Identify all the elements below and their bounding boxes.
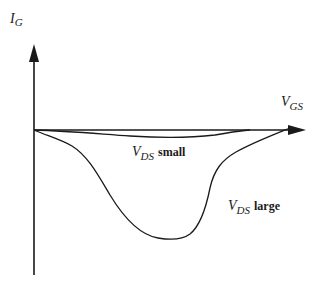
x-axis-arrow-icon (288, 125, 306, 135)
x-axis-symbol: V (281, 94, 290, 109)
vds-small-symbol: V (132, 144, 141, 159)
vds-large-subscript: DS (237, 204, 250, 216)
y-axis-label: IG (10, 10, 23, 26)
x-axis-label: VGS (281, 93, 303, 109)
x-axis-subscript: GS (290, 100, 303, 112)
label-vds-large: VDS large (228, 197, 280, 213)
curve-vds-small (34, 130, 250, 137)
y-axis-subscript: G (15, 16, 23, 28)
label-vds-small: VDS small (132, 143, 185, 159)
vds-small-qualifier: small (158, 145, 185, 159)
y-axis-symbol: I (10, 11, 15, 26)
vds-large-qualifier: large (254, 199, 280, 213)
y-axis-arrow-icon (29, 44, 39, 62)
vds-small-subscript: DS (141, 150, 154, 162)
vds-large-symbol: V (228, 198, 237, 213)
